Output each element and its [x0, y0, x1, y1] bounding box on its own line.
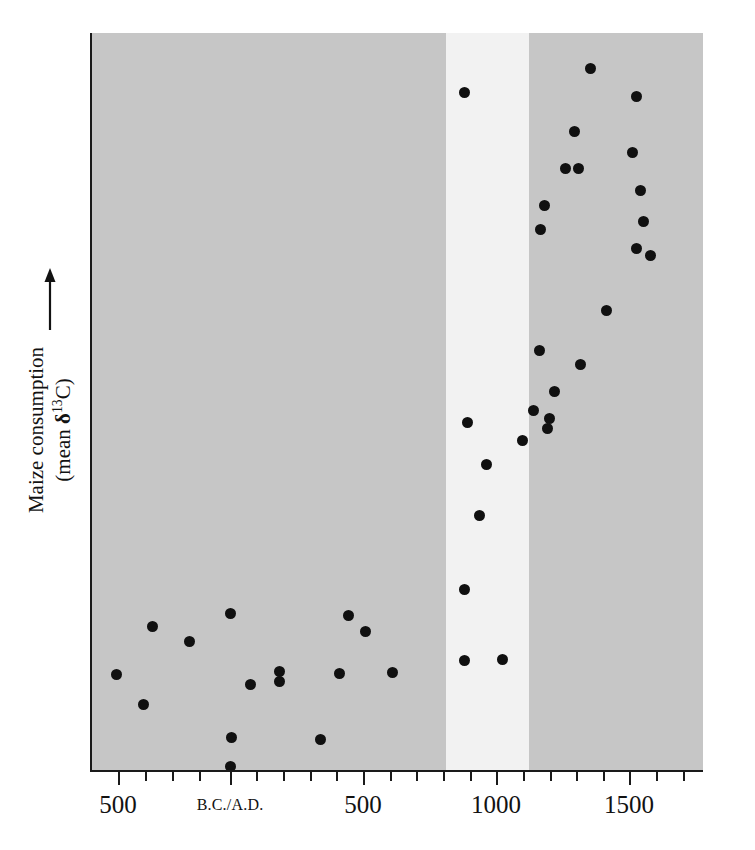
x-axis-tick	[283, 772, 285, 781]
data-point	[274, 666, 285, 677]
data-point	[245, 679, 256, 690]
x-axis-tick	[336, 772, 338, 781]
x-axis-tick-layer	[90, 772, 703, 786]
delta-superscript: 13	[51, 399, 66, 413]
x-axis-tick	[118, 772, 120, 785]
data-point	[635, 185, 646, 196]
y-axis-label-suffix: C)	[52, 378, 76, 399]
x-axis-tick	[603, 772, 605, 781]
data-point	[459, 655, 470, 666]
data-point	[638, 216, 649, 227]
data-point	[462, 417, 473, 428]
y-axis-label-text: Maize consumption (mean δ13C)	[23, 347, 77, 513]
data-point	[184, 636, 195, 647]
x-axis-tick	[145, 772, 147, 781]
data-point	[539, 200, 550, 211]
x-axis-tick-label: 500	[344, 790, 382, 820]
data-point	[575, 359, 586, 370]
x-axis-label-layer: 500B.C./A.D.50010001500	[0, 790, 755, 830]
data-point	[138, 699, 149, 710]
x-axis-tick	[310, 772, 312, 781]
data-point	[474, 510, 485, 521]
x-axis-tick	[550, 772, 552, 781]
data-point	[481, 459, 492, 470]
y-axis-label-line2: (mean δ13C)	[50, 347, 77, 513]
data-point	[517, 435, 528, 446]
data-point	[147, 621, 158, 632]
data-point	[225, 761, 236, 772]
data-point	[631, 91, 642, 102]
data-point	[549, 386, 560, 397]
x-axis-tick	[523, 772, 525, 781]
x-axis-tick-label: 1500	[604, 790, 654, 820]
x-axis-tick	[470, 772, 472, 781]
data-point	[573, 163, 584, 174]
data-point	[497, 654, 508, 665]
data-point	[544, 413, 555, 424]
x-axis-tick	[496, 772, 498, 785]
data-point	[645, 250, 656, 261]
data-point	[334, 668, 345, 679]
x-axis-tick	[172, 772, 174, 781]
delta-symbol: δ	[52, 413, 76, 424]
y-axis-label-line1: Maize consumption	[24, 347, 48, 513]
data-point	[111, 669, 122, 680]
x-axis-tick	[656, 772, 658, 781]
x-axis-tick	[363, 772, 365, 785]
y-axis-label-prefix: (mean	[52, 424, 76, 482]
x-axis-era-label: B.C./A.D.	[197, 790, 264, 820]
data-point	[528, 405, 539, 416]
data-point	[631, 243, 642, 254]
data-point	[343, 610, 354, 621]
up-arrow-icon	[42, 268, 58, 330]
data-point	[534, 345, 545, 356]
data-point	[360, 626, 371, 637]
data-point	[226, 732, 237, 743]
data-point	[274, 676, 285, 687]
x-axis-tick	[390, 772, 392, 781]
data-point	[459, 584, 470, 595]
data-point	[601, 305, 612, 316]
x-axis-tick	[230, 772, 232, 785]
x-axis-tick	[683, 772, 685, 781]
data-point	[560, 163, 571, 174]
plot-panel	[90, 33, 703, 772]
x-axis-tick	[199, 772, 201, 781]
x-axis-tick	[416, 772, 418, 781]
data-point	[569, 126, 580, 137]
x-axis-tick-label: 1000	[471, 790, 521, 820]
data-point	[459, 87, 470, 98]
x-axis-tick	[576, 772, 578, 781]
x-axis-tick	[629, 772, 631, 785]
x-axis-tick	[443, 772, 445, 781]
figure-container: 500B.C./A.D.50010001500 Maize consumptio…	[0, 0, 755, 850]
data-point	[315, 734, 326, 745]
x-axis-tick-label: 500	[99, 790, 137, 820]
data-point	[585, 63, 596, 74]
data-point	[542, 423, 553, 434]
data-point	[627, 147, 638, 158]
data-point	[535, 224, 546, 235]
data-point	[225, 608, 236, 619]
x-axis-tick	[256, 772, 258, 781]
data-point	[387, 667, 398, 678]
